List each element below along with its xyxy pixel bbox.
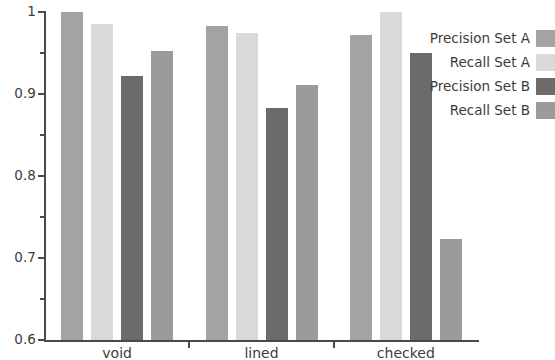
y-tick-major: [38, 11, 45, 13]
legend-swatch: [536, 102, 555, 119]
bar: [350, 35, 372, 340]
y-tick-major: [38, 339, 45, 341]
legend-swatch: [536, 78, 555, 95]
chart-legend: Precision Set ARecall Set APrecision Set…: [420, 26, 555, 122]
bar: [206, 26, 228, 340]
y-tick-label-wrap: 0.9: [0, 85, 36, 101]
y-tick-label: 0.8: [14, 167, 36, 183]
x-tick-label-checked: checked: [346, 345, 466, 360]
bar: [266, 108, 288, 340]
legend-swatch: [536, 30, 555, 47]
x-axis-group-separator: [333, 342, 335, 348]
legend-row: Recall Set A: [420, 50, 555, 74]
y-tick-label: 0.7: [14, 249, 36, 265]
y-tick-label: 0.9: [14, 85, 36, 101]
y-tick-label: 1: [27, 3, 36, 19]
legend-row: Recall Set B: [420, 98, 555, 122]
bar: [296, 85, 318, 340]
legend-label: Precision Set A: [430, 30, 536, 46]
y-tick-label-wrap: 1: [0, 3, 36, 19]
y-tick-major: [38, 257, 45, 259]
x-axis-group-separator: [188, 342, 190, 348]
bar: [151, 51, 173, 340]
legend-label: Recall Set B: [450, 102, 536, 118]
bar: [61, 12, 83, 340]
bar: [91, 24, 113, 340]
y-tick-label-wrap: 0.7: [0, 249, 36, 265]
bar: [380, 12, 402, 340]
bar: [440, 239, 462, 340]
legend-swatch: [536, 54, 555, 71]
legend-label: Recall Set A: [450, 54, 536, 70]
bar: [121, 76, 143, 340]
legend-label: Precision Set B: [430, 78, 536, 94]
plot-area: [45, 12, 478, 340]
legend-row: Precision Set A: [420, 26, 555, 50]
y-tick-label-wrap: 0.6: [0, 331, 36, 347]
x-tick-label-void: void: [57, 345, 177, 360]
y-tick-label: 0.6: [14, 331, 36, 347]
x-tick-label-lined: lined: [202, 345, 322, 360]
x-axis-line: [44, 340, 479, 342]
bar: [236, 33, 258, 341]
bar-chart: 10.90.80.70.6 voidlinedchecked Precision…: [0, 0, 555, 360]
legend-row: Precision Set B: [420, 74, 555, 98]
y-tick-major: [38, 93, 45, 95]
y-tick-label-wrap: 0.8: [0, 167, 36, 183]
y-tick-major: [38, 175, 45, 177]
